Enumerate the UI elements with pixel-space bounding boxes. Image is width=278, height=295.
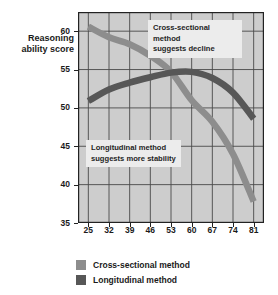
x-tick-mark — [192, 223, 193, 227]
legend-swatch-icon — [76, 260, 86, 270]
y-axis-label-line2: ability score — [2, 44, 74, 55]
legend-item-longitudinal: Longitudinal method — [76, 273, 190, 287]
annotation-cross-sectional-line1: Cross-sectional method — [153, 23, 237, 44]
x-tick-mark — [212, 223, 213, 227]
y-tick-label: 40 — [48, 179, 70, 189]
annotation-longitudinal-line1: Longitudinal method — [91, 143, 176, 154]
y-tick-label: 35 — [48, 218, 70, 228]
x-tick-mark — [171, 223, 172, 227]
annotation-cross-sectional: Cross-sectional method suggests decline — [148, 20, 242, 58]
chart-figure: Reasoning ability score 354045505560 253… — [0, 0, 278, 295]
x-tick-mark — [150, 223, 151, 227]
legend-item-cross-sectional: Cross-sectional method — [76, 258, 190, 272]
y-tick-label: 45 — [48, 141, 70, 151]
y-tick-label: 60 — [48, 26, 70, 36]
annotation-longitudinal: Longitudinal method suggests more stabil… — [86, 140, 181, 167]
legend-label-cross-sectional: Cross-sectional method — [93, 260, 190, 270]
x-tick-mark — [88, 223, 89, 227]
x-tick-mark — [109, 223, 110, 227]
legend-swatch-icon — [76, 275, 86, 285]
x-tick-mark — [254, 223, 255, 227]
chart-legend: Cross-sectional method Longitudinal meth… — [76, 258, 190, 288]
annotation-cross-sectional-line2: suggests decline — [153, 44, 237, 55]
x-tick-mark — [130, 223, 131, 227]
y-axis-label: Reasoning ability score — [2, 33, 74, 55]
annotation-longitudinal-line2: suggests more stability — [91, 154, 176, 165]
y-tick-mark — [74, 223, 78, 224]
legend-label-longitudinal: Longitudinal method — [93, 275, 177, 285]
y-tick-label: 50 — [48, 102, 70, 112]
x-tick-mark — [233, 223, 234, 227]
y-tick-label: 55 — [48, 64, 70, 74]
